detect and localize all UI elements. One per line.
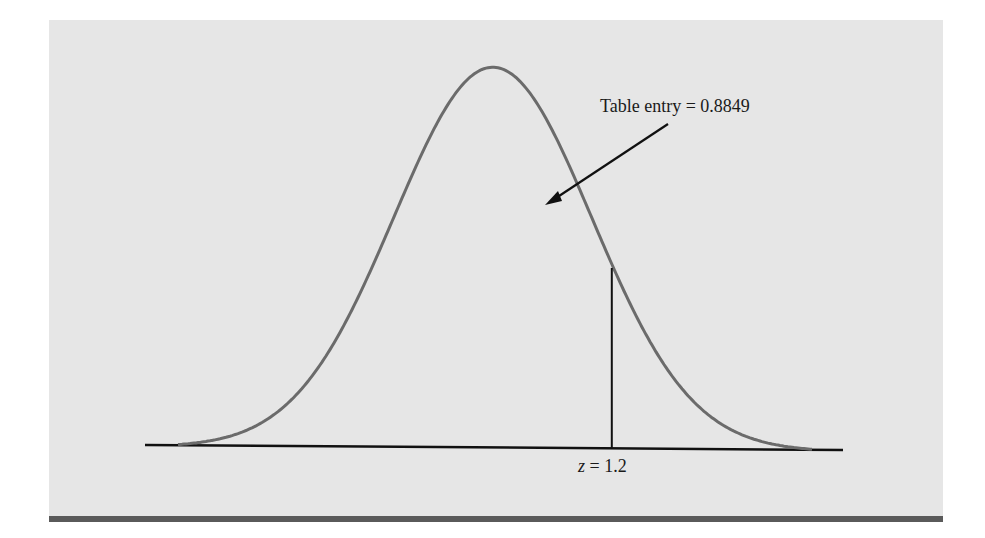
table-entry-label: Table entry = 0.8849 [600, 96, 750, 117]
z-equals-value: = 1.2 [585, 456, 627, 476]
arrowhead-icon [545, 191, 562, 205]
z-value-label: z = 1.2 [578, 456, 627, 477]
normal-curve [178, 67, 812, 449]
annotation-arrow [553, 124, 668, 200]
x-axis [145, 445, 843, 450]
normal-curve-plot [0, 0, 985, 538]
z-variable: z [578, 456, 585, 476]
